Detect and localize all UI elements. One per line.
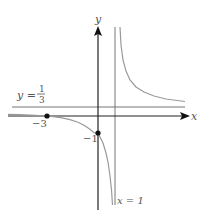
v-asymptote-label: x = 1 bbox=[117, 195, 144, 206]
point-y-intercept-label: −1 bbox=[83, 133, 98, 144]
curve-left-branch bbox=[8, 114, 113, 205]
x-axis-label: x bbox=[191, 110, 198, 123]
h-asymptote-fraction-den: 3 bbox=[39, 95, 45, 105]
curve-right-branch bbox=[120, 27, 185, 102]
y-axis-label: y bbox=[94, 13, 102, 26]
h-asymptote-fraction-num: 1 bbox=[39, 84, 45, 94]
point-x-intercept-label: −3 bbox=[32, 118, 47, 129]
h-asymptote-label: y = bbox=[16, 89, 36, 102]
rational-function-graph: y x y = 1 3 x = 1 −3 −1 bbox=[0, 0, 201, 217]
